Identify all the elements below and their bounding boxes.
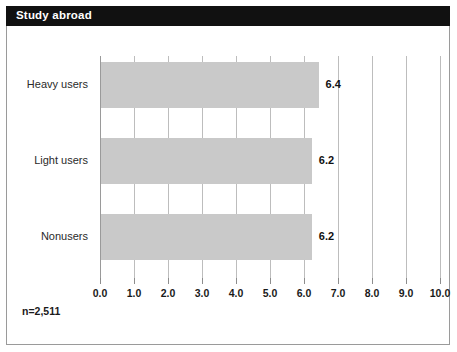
- bar: [101, 214, 312, 260]
- x-axis-tick: [202, 278, 203, 284]
- x-axis-tick: [168, 278, 169, 284]
- bar-value-label: 6.2: [319, 230, 334, 242]
- bar-value-label: 6.2: [319, 154, 334, 166]
- category-label: Heavy users: [2, 78, 88, 90]
- panel-title: Study abroad: [16, 9, 92, 21]
- gridline: [372, 56, 373, 278]
- x-axis-tick: [338, 278, 339, 284]
- gridline: [440, 56, 441, 278]
- gridline: [406, 56, 407, 278]
- x-axis-tick: [270, 278, 271, 284]
- x-axis-tick: [236, 278, 237, 284]
- bar: [101, 62, 319, 108]
- bar: [101, 138, 312, 184]
- panel-title-bar: Study abroad: [6, 6, 450, 26]
- plot-area: 0.01.02.03.04.05.06.07.08.09.010.06.4Hea…: [100, 56, 440, 278]
- x-axis-tick-label: 10.0: [420, 287, 457, 299]
- category-label: Light users: [2, 154, 88, 166]
- category-label: Nonusers: [2, 230, 88, 242]
- bar-value-label: 6.4: [326, 78, 341, 90]
- x-axis-tick: [100, 278, 101, 284]
- sample-size-note: n=2,511: [22, 305, 60, 317]
- x-axis-tick: [406, 278, 407, 284]
- x-axis-tick: [440, 278, 441, 284]
- x-axis-tick: [304, 278, 305, 284]
- chart-panel: Study abroad 0.01.02.03.04.05.06.07.08.0…: [0, 0, 457, 352]
- x-axis-tick: [134, 278, 135, 284]
- x-axis-tick: [372, 278, 373, 284]
